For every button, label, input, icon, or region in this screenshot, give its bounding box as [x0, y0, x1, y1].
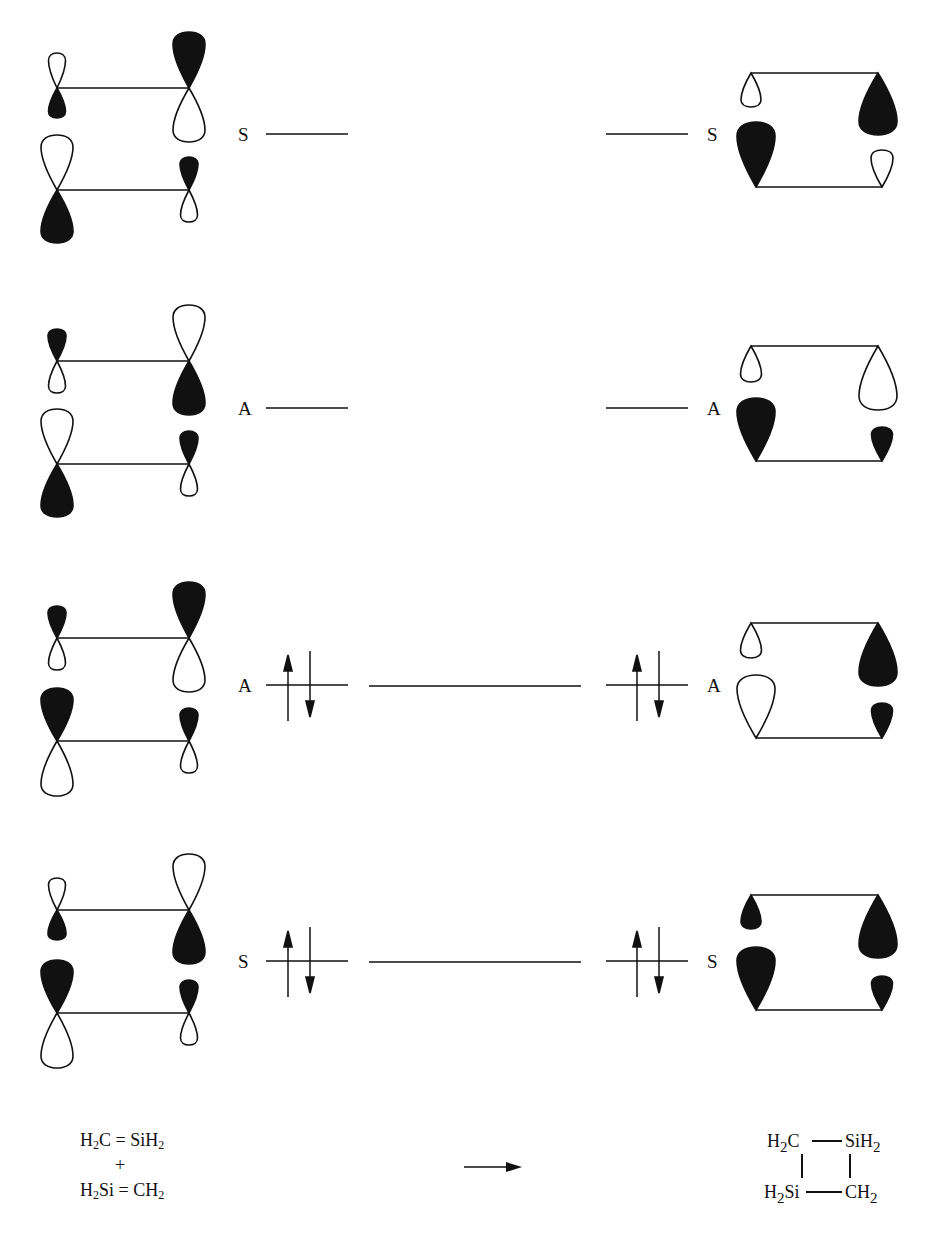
reactant-symmetry-label: A	[238, 398, 252, 419]
subscript: 2	[158, 1188, 164, 1202]
orbital-lobe-filled	[859, 73, 897, 135]
orbital-lobe-filled	[180, 980, 198, 1013]
orbital-lobe-filled	[41, 464, 73, 517]
product-symmetry-label: S	[707, 951, 718, 972]
reactant-symmetry-label: S	[238, 124, 249, 145]
arrowhead-down-icon	[655, 701, 663, 717]
orbital-lobe-filled	[41, 190, 73, 243]
atom-text: H	[767, 1131, 780, 1151]
orbital-lobe-open	[41, 741, 73, 796]
orbital-lobe-filled	[173, 32, 205, 88]
atom-text: C = SiH	[99, 1130, 158, 1150]
orbital-lobe-filled	[180, 431, 198, 464]
product-disilacyclobutane: H2C SiH2 H2Si CH2	[767, 1128, 897, 1208]
atom-bottom-left: H2Si	[764, 1182, 800, 1207]
orbital-lobe-filled	[741, 895, 761, 929]
orbital-lobe-filled	[49, 88, 66, 118]
arrowhead-down-icon	[306, 701, 314, 717]
orbital-lobe-open	[871, 150, 893, 187]
atom-text: Si = CH	[99, 1180, 158, 1200]
atom-bottom-right: CH2	[845, 1182, 878, 1207]
orbital-lobe-open	[181, 1013, 198, 1045]
orbital-lobe-open	[49, 638, 66, 670]
orbital-lobe-filled	[872, 427, 893, 461]
orbital-lobe-filled	[872, 703, 893, 738]
orbital-lobe-open	[181, 464, 198, 496]
atom-text: C	[788, 1131, 800, 1151]
bond-bottom	[806, 1191, 842, 1193]
product-symmetry-label: S	[707, 124, 718, 145]
product-symmetry-label: A	[707, 675, 721, 696]
orbital-lobe-open	[741, 623, 762, 658]
orbital-lobe-filled	[737, 947, 775, 1010]
orbital-lobe-open	[49, 878, 66, 910]
orbital-lobe-open	[41, 409, 73, 464]
orbital-lobe-filled	[737, 122, 775, 187]
subscript: 2	[873, 1139, 881, 1155]
orbital-lobe-filled	[173, 582, 205, 638]
atom-text: SiH	[845, 1131, 873, 1151]
orbital-lobe-filled	[737, 398, 775, 461]
orbital-lobe-open	[859, 346, 897, 410]
product-symmetry-label: A	[707, 398, 721, 419]
orbital-lobe-filled	[180, 708, 198, 741]
orbital-lobe-filled	[173, 361, 205, 415]
subscript: 2	[158, 1138, 164, 1152]
orbital-lobe-filled	[48, 606, 66, 638]
orbital-lobe-filled	[859, 623, 897, 686]
orbital-lobe-open	[41, 1013, 73, 1068]
orbital-lobe-filled	[41, 960, 73, 1013]
subscript: 2	[870, 1190, 878, 1206]
orbital-lobe-open	[741, 73, 761, 107]
orbital-lobe-open	[181, 741, 198, 773]
orbital-lobe-open	[173, 854, 205, 910]
orbital-lobe-open	[49, 53, 66, 88]
reaction-arrow-icon	[462, 1160, 524, 1174]
reactant-symmetry-label: A	[238, 675, 252, 696]
atom-top-left: H2C	[767, 1131, 800, 1156]
subscript: 2	[780, 1139, 788, 1155]
orbital-lobe-open	[49, 361, 66, 393]
reactant-symmetry-label: S	[238, 951, 249, 972]
subscript: 2	[777, 1190, 785, 1206]
orbital-lobe-open	[173, 88, 205, 142]
orbital-lobe-filled	[173, 910, 205, 964]
orbital-lobe-filled	[872, 976, 893, 1010]
reactant-silene-2: H2Si = CH2	[80, 1181, 164, 1201]
atom-text: CH	[845, 1182, 870, 1202]
arrowhead-up-icon	[284, 655, 292, 671]
orbital-lobe-filled	[41, 688, 73, 741]
orbital-lobe-open	[173, 638, 205, 692]
atom-text: H	[764, 1182, 777, 1202]
atom-top-right: SiH2	[845, 1131, 881, 1156]
arrowhead-down-icon	[306, 977, 314, 993]
bond-left	[801, 1154, 803, 1178]
orbital-lobe-filled	[48, 910, 66, 940]
orbital-correlation-diagram: SSAAAASS	[0, 0, 930, 1249]
orbital-lobe-open	[181, 190, 198, 222]
arrowhead-down-icon	[655, 977, 663, 993]
arrowhead-up-icon	[633, 931, 641, 947]
atom-text: Si	[785, 1182, 800, 1202]
atom-text: H	[80, 1180, 93, 1200]
bond-top	[812, 1140, 842, 1142]
orbital-lobe-filled	[180, 157, 198, 190]
plus-text: +	[115, 1155, 125, 1175]
orbital-lobe-filled	[859, 895, 897, 958]
arrowhead-up-icon	[633, 655, 641, 671]
reactant-silene-1: H2C = SiH2	[80, 1131, 164, 1151]
orbital-lobe-open	[737, 675, 775, 738]
arrowhead-up-icon	[284, 931, 292, 947]
atom-text: H	[80, 1130, 93, 1150]
orbital-lobe-filled	[48, 329, 66, 361]
plus-sign: +	[115, 1156, 125, 1174]
orbital-lobe-open	[41, 135, 73, 190]
bond-right	[849, 1154, 851, 1178]
orbital-lobe-open	[173, 305, 205, 361]
orbital-lobe-open	[741, 346, 762, 382]
